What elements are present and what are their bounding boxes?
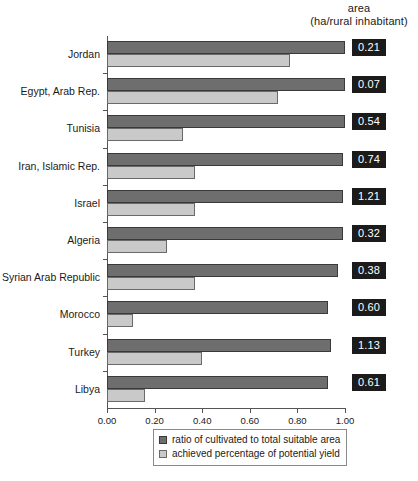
category-label: Egypt, Arab Rep. — [0, 85, 100, 97]
x-axis-tick-label: 1.00 — [323, 415, 367, 426]
chart-bar-group — [107, 185, 345, 222]
bar-cultivated-ratio — [107, 115, 345, 128]
x-axis-tick-label: 0.40 — [180, 415, 224, 426]
legend-item-series1: ratio of cultivated to total suitable ar… — [159, 433, 340, 447]
chart-legend: ratio of cultivated to total suitable ar… — [153, 429, 347, 466]
category-label: Iran, Islamic Rep. — [0, 160, 100, 172]
area-value-chip: 0.32 — [352, 225, 386, 242]
area-header-line1: area — [300, 2, 418, 15]
bar-achieved-yield — [107, 240, 167, 253]
x-axis-line — [107, 408, 345, 409]
legend-swatch-series1 — [159, 436, 167, 444]
area-value-chip: 0.60 — [352, 299, 386, 316]
plot-area: 0.000.200.400.600.801.00 — [107, 36, 345, 408]
bar-achieved-yield — [107, 314, 133, 327]
x-axis-tick-label: 0.80 — [275, 415, 319, 426]
bar-cultivated-ratio — [107, 339, 331, 352]
x-axis-tick — [297, 408, 298, 413]
chart-bar-group — [107, 73, 345, 110]
bar-cultivated-ratio — [107, 190, 343, 203]
legend-label-series1: ratio of cultivated to total suitable ar… — [172, 433, 340, 447]
chart-bar-group — [107, 259, 345, 296]
chart-bar-group — [107, 334, 345, 371]
chart-bar-group — [107, 36, 345, 73]
bar-achieved-yield — [107, 128, 183, 141]
legend-swatch-series2 — [159, 450, 167, 458]
area-value-chip: 0.38 — [352, 262, 386, 279]
x-axis-tick — [155, 408, 156, 413]
x-axis-tick-label: 0.00 — [85, 415, 129, 426]
area-header-line2: (ha/rural inhabitant) — [300, 15, 418, 28]
area-value-chip: 0.54 — [352, 113, 386, 130]
bar-achieved-yield — [107, 91, 278, 104]
bar-achieved-yield — [107, 389, 145, 402]
legend-item-series2: achieved percentage of potential yield — [159, 447, 340, 461]
bar-achieved-yield — [107, 352, 202, 365]
chart-bar-group — [107, 222, 345, 259]
legend-label-series2: achieved percentage of potential yield — [172, 447, 340, 461]
chart-bar-group — [107, 148, 345, 185]
bar-achieved-yield — [107, 277, 195, 290]
bar-cultivated-ratio — [107, 264, 338, 277]
bar-cultivated-ratio — [107, 301, 328, 314]
category-label: Syrian Arab Republic — [0, 271, 100, 283]
bar-cultivated-ratio — [107, 153, 343, 166]
category-label: Turkey — [0, 346, 100, 358]
category-label: Morocco — [0, 308, 100, 320]
chart-bar-group — [107, 371, 345, 408]
chart-container: area (ha/rural inhabitant) 0.000.200.400… — [0, 0, 418, 481]
area-value-chip: 0.21 — [352, 39, 386, 56]
area-value-chip: 0.74 — [352, 151, 386, 168]
bar-achieved-yield — [107, 54, 290, 67]
bar-achieved-yield — [107, 166, 195, 179]
bar-cultivated-ratio — [107, 41, 345, 54]
x-axis-tick — [250, 408, 251, 413]
category-label: Israel — [0, 197, 100, 209]
x-axis-tick — [107, 408, 108, 413]
area-value-chip: 0.07 — [352, 76, 386, 93]
x-axis-tick — [345, 408, 346, 413]
bar-cultivated-ratio — [107, 376, 328, 389]
category-label: Libya — [0, 383, 100, 395]
area-value-chip: 1.13 — [352, 337, 386, 354]
area-value-chip: 0.61 — [352, 374, 386, 391]
area-column-header: area (ha/rural inhabitant) — [300, 2, 418, 28]
category-label: Jordan — [0, 48, 100, 60]
bar-cultivated-ratio — [107, 227, 343, 240]
bar-achieved-yield — [107, 203, 195, 216]
area-value-chip: 1.21 — [352, 188, 386, 205]
x-axis-tick-label: 0.20 — [133, 415, 177, 426]
category-label: Tunisia — [0, 122, 100, 134]
x-axis-tick — [202, 408, 203, 413]
bar-cultivated-ratio — [107, 78, 345, 91]
chart-bar-group — [107, 110, 345, 147]
chart-bar-group — [107, 296, 345, 333]
category-label: Algeria — [0, 234, 100, 246]
x-axis-tick-label: 0.60 — [228, 415, 272, 426]
